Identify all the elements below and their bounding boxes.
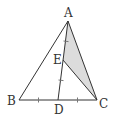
label-e: E bbox=[53, 53, 62, 67]
tick-mark-ed bbox=[59, 80, 64, 81]
label-d: D bbox=[54, 103, 64, 117]
triangle-diagram: A B C D E bbox=[0, 0, 117, 122]
shaded-triangle-aec bbox=[63, 21, 97, 100]
label-c: C bbox=[99, 97, 108, 111]
label-b: B bbox=[7, 94, 16, 108]
label-a: A bbox=[63, 6, 73, 20]
tick-mark-ae bbox=[64, 41, 69, 42]
